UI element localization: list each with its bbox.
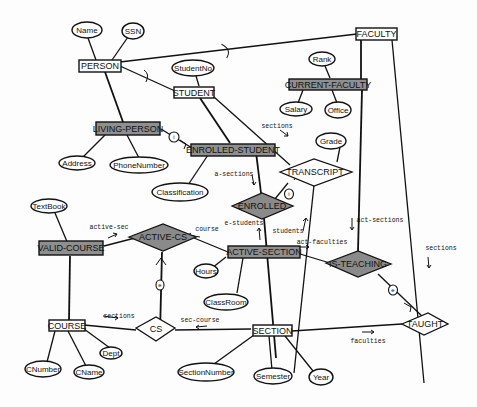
entity-living-person[interactable]: LIVING-PERSON xyxy=(93,122,164,135)
svg-text:Address: Address xyxy=(62,159,91,168)
rel-cs[interactable]: CS xyxy=(136,317,175,341)
svg-text:i: i xyxy=(288,191,289,197)
svg-text:CNumber: CNumber xyxy=(26,365,61,374)
svg-text:Hours: Hours xyxy=(195,267,216,276)
role-sections-top: sections xyxy=(261,123,292,130)
rel-active-cs[interactable]: ACTIVE-CS xyxy=(129,224,196,251)
svg-text:VALID-COURSE: VALID-COURSE xyxy=(38,243,105,253)
role-active-sec: active-sec xyxy=(89,224,128,231)
entity-section[interactable]: SECTION xyxy=(252,325,292,336)
attr-office[interactable]: Office xyxy=(325,102,351,118)
attr-rank[interactable]: Rank xyxy=(309,52,335,66)
entity-course[interactable]: COURSE xyxy=(48,320,87,331)
role-students: students xyxy=(272,228,303,235)
entity-current-faculty[interactable]: CURRENT-FACULTY xyxy=(285,79,371,90)
role-faculties: faculties xyxy=(350,338,385,345)
er-diagram: i i e e Name SSN StudentNo Rank Salary O… xyxy=(0,0,477,407)
attr-address[interactable]: Address xyxy=(59,156,95,170)
svg-text:TRANSCRIPT: TRANSCRIPT xyxy=(286,167,344,177)
svg-text:Name: Name xyxy=(76,26,98,35)
svg-text:Semester: Semester xyxy=(256,372,291,381)
svg-text:PhoneNumber: PhoneNumber xyxy=(113,161,165,170)
svg-text:StudentNo: StudentNo xyxy=(174,64,212,73)
svg-text:ENROLLED-STUDENT: ENROLLED-STUDENT xyxy=(186,145,281,155)
attr-grade[interactable]: Grade xyxy=(316,133,346,149)
svg-text:COURSE: COURSE xyxy=(48,321,87,331)
role-sec-course: sec-course xyxy=(180,317,219,324)
marker-transcript-enrolled: i xyxy=(285,189,294,199)
svg-text:TAUGHT: TAUGHT xyxy=(407,319,444,329)
attr-name[interactable]: Name xyxy=(72,22,102,38)
svg-text:LIVING-PERSON: LIVING-PERSON xyxy=(93,124,164,134)
rel-taught[interactable]: TAUGHT xyxy=(402,313,448,335)
attr-studentno[interactable]: StudentNo xyxy=(172,60,214,76)
svg-text:FACULTY: FACULTY xyxy=(357,29,397,39)
svg-text:CURRENT-FACULTY: CURRENT-FACULTY xyxy=(285,80,371,90)
attr-classroom[interactable]: ClassRoom xyxy=(204,294,248,310)
svg-text:Dept: Dept xyxy=(103,349,121,358)
attr-cname[interactable]: CName xyxy=(74,365,104,379)
attr-hours[interactable]: Hours xyxy=(194,264,218,278)
rel-transcript[interactable]: TRANSCRIPT xyxy=(280,159,352,186)
marker-teaching-taught: e xyxy=(389,285,398,295)
attr-salary[interactable]: Salary xyxy=(280,102,312,116)
svg-text:ACTIVE-SECTION: ACTIVE-SECTION xyxy=(226,247,302,257)
rel-is-teaching[interactable]: IS-TEACHING xyxy=(326,251,391,277)
svg-text:SECTION: SECTION xyxy=(252,326,292,336)
entity-active-section[interactable]: ACTIVE-SECTION xyxy=(226,246,302,258)
role-sections-bottom: sections xyxy=(103,313,134,320)
entity-valid-course[interactable]: VALID-COURSE xyxy=(38,241,105,255)
attr-textbook[interactable]: TextBook xyxy=(31,199,67,213)
entity-person[interactable]: PERSON xyxy=(79,60,121,72)
entity-student[interactable]: STUDENT xyxy=(173,87,216,98)
svg-text:CName: CName xyxy=(75,368,103,377)
marker-cs-active: e xyxy=(156,280,164,290)
entity-enrolled-student[interactable]: ENROLLED-STUDENT xyxy=(186,144,281,156)
attr-semester[interactable]: Semester xyxy=(254,368,292,384)
svg-text:STUDENT: STUDENT xyxy=(173,88,216,98)
svg-text:Office: Office xyxy=(328,106,349,115)
attr-sectionnumber[interactable]: SectionNumber xyxy=(178,363,234,381)
rel-enrolled[interactable]: ENROLLED xyxy=(232,193,293,219)
entities: PERSON STUDENT FACULTY CURRENT-FACULTY L… xyxy=(38,28,397,336)
svg-text:PERSON: PERSON xyxy=(81,61,119,71)
svg-text:i: i xyxy=(173,134,174,140)
role-course: course xyxy=(195,226,219,233)
svg-text:SSN: SSN xyxy=(125,27,142,36)
svg-text:Grade: Grade xyxy=(320,137,343,146)
attr-dept[interactable]: Dept xyxy=(100,347,122,359)
svg-text:ENROLLED: ENROLLED xyxy=(238,201,287,211)
svg-text:IS-TEACHING: IS-TEACHING xyxy=(329,259,387,269)
svg-text:SectionNumber: SectionNumber xyxy=(178,368,233,377)
marker-living-enrolled: i xyxy=(169,132,179,142)
svg-text:Salary: Salary xyxy=(285,105,308,114)
attr-year[interactable]: Year xyxy=(309,369,333,385)
attr-cnumber[interactable]: CNumber xyxy=(25,361,61,377)
role-act-sections: act-sections xyxy=(357,217,404,224)
role-sections-right: sections xyxy=(425,245,456,252)
svg-text:Rank: Rank xyxy=(313,55,333,64)
attr-ssn[interactable]: SSN xyxy=(122,23,144,39)
svg-text:Year: Year xyxy=(313,373,330,382)
role-e-students: e-students xyxy=(224,220,263,227)
svg-text:TextBook: TextBook xyxy=(33,202,67,211)
attr-classification[interactable]: Classification xyxy=(152,183,208,201)
entity-faculty[interactable]: FACULTY xyxy=(356,28,397,40)
svg-text:CS: CS xyxy=(150,324,163,334)
role-act-faculties: act-faculties xyxy=(297,239,348,246)
role-a-sections: a-sections xyxy=(214,171,253,178)
svg-text:ClassRoom: ClassRoom xyxy=(205,298,247,307)
attr-phonenumber[interactable]: PhoneNumber xyxy=(110,157,168,173)
svg-text:ACTIVE-CS: ACTIVE-CS xyxy=(139,232,187,242)
svg-text:Classification: Classification xyxy=(156,188,203,197)
